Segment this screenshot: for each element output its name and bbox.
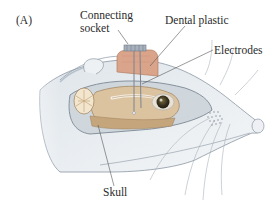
dental-plastic-leader bbox=[150, 26, 185, 66]
label-connecting-socket-line2: socket bbox=[80, 22, 109, 34]
label-connecting-socket-line1: Connecting bbox=[80, 9, 133, 21]
figure-canvas: (A) Connecting socket Dental plastic Ele… bbox=[0, 0, 275, 209]
panel-label: (A) bbox=[16, 14, 32, 26]
rat-head-illustration bbox=[0, 0, 275, 209]
eye bbox=[152, 94, 174, 110]
socket-leader bbox=[118, 30, 128, 44]
label-skull: Skull bbox=[103, 186, 127, 198]
label-electrodes: Electrodes bbox=[214, 44, 263, 56]
label-dental-plastic: Dental plastic bbox=[165, 14, 229, 26]
cerebellum bbox=[74, 88, 94, 114]
